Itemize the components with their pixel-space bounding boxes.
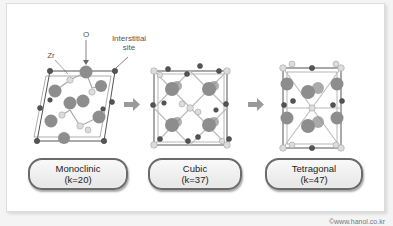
structure-name: Tetragonal bbox=[267, 163, 361, 174]
monoclinic-structure-diagram bbox=[0, 0, 393, 226]
credit-text: ©www.hanol.co.kr bbox=[329, 218, 385, 225]
structure-k-value: (k=20) bbox=[30, 174, 126, 185]
cubic-label-pill: Cubic (k=37) bbox=[148, 158, 242, 190]
structure-k-value: (k=37) bbox=[150, 174, 240, 185]
tetragonal-label-pill: Tetragonal (k=47) bbox=[265, 158, 363, 190]
structure-name: Cubic bbox=[150, 163, 240, 174]
structure-k-value: (k=47) bbox=[267, 174, 361, 185]
structure-name: Monoclinic bbox=[30, 163, 126, 174]
monoclinic-label-pill: Monoclinic (k=20) bbox=[28, 158, 128, 190]
